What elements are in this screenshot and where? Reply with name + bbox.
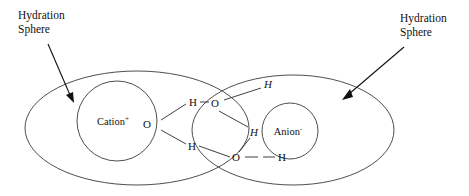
right-callout-arrow-shaft: [349, 47, 404, 94]
bond-cation-o-to-bottom-h: [161, 130, 186, 144]
atom-anion-h-right: H: [278, 151, 286, 163]
right-callout-arrow-head: [342, 89, 353, 100]
bond-cation-o-to-top-h: [161, 104, 186, 120]
atom-anion-h-upper: H: [263, 78, 273, 90]
left-callout-arrow-head: [66, 92, 74, 103]
right-callout-line1: Hydration: [400, 12, 447, 25]
anion-charge: -: [300, 125, 303, 133]
bond-anion-o-bottom-to-h-middle: [239, 138, 250, 152]
right-callout-line2: Sphere: [400, 26, 432, 39]
cation-label-group: Cation+: [97, 115, 129, 127]
bond-anion-o-top-to-h-middle: [219, 111, 248, 127]
atom-bridge-h-bottom: H: [188, 140, 196, 152]
diagram-canvas: O H H O H H O H Cation+ Anion- Hydration…: [0, 0, 469, 196]
left-callout-line2: Sphere: [18, 23, 50, 36]
atom-bridge-h-top: H: [189, 96, 197, 108]
atom-anion-h-middle: H: [249, 126, 259, 138]
hydration-sphere-figure: O H H O H H O H Cation+ Anion- Hydration…: [0, 0, 469, 196]
atom-cation-oxygen: O: [143, 118, 151, 130]
anion-label-group: Anion-: [274, 125, 303, 137]
atom-anion-oxygen-bottom: O: [232, 151, 240, 163]
bond-anion-o-top-to-h-upper: [224, 88, 261, 100]
left-hydration-sphere-outline: [25, 71, 249, 185]
left-callout-line1: Hydration: [18, 9, 65, 22]
atom-anion-oxygen-top: O: [211, 97, 219, 109]
cation-charge: +: [125, 115, 129, 123]
cation-label: Cation: [97, 116, 126, 127]
anion-label: Anion: [274, 126, 301, 137]
